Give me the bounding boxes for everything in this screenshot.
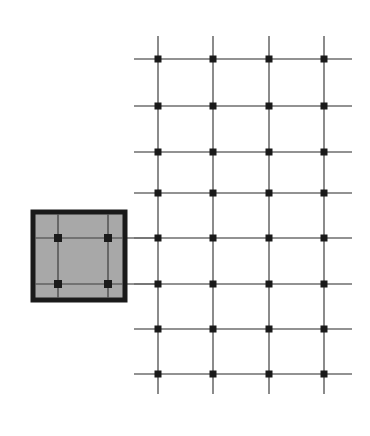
lattice-node-r6-c2 — [266, 326, 273, 333]
lattice-node-r3-c1 — [210, 190, 217, 197]
lattice-node-r2-c0 — [155, 149, 162, 156]
lattice-diagram — [0, 0, 370, 436]
lattice-node-r2-c1 — [210, 149, 217, 156]
lattice-node-r5-c2 — [266, 281, 273, 288]
inset-node-r0-c1 — [104, 234, 112, 242]
lattice-node-r5-c3 — [321, 281, 328, 288]
lattice-node-r0-c2 — [266, 56, 273, 63]
lattice-node-r7-c0 — [155, 371, 162, 378]
lattice-node-r4-c2 — [266, 235, 273, 242]
inset-node-r1-c1 — [104, 280, 112, 288]
lattice-node-r6-c1 — [210, 326, 217, 333]
lattice-node-r0-c3 — [321, 56, 328, 63]
lattice-node-r5-c1 — [210, 281, 217, 288]
lattice-node-r0-c0 — [155, 56, 162, 63]
lattice-node-r3-c2 — [266, 190, 273, 197]
inset-node-r1-c0 — [54, 280, 62, 288]
lattice-node-r0-c1 — [210, 56, 217, 63]
lattice-node-r1-c3 — [321, 103, 328, 110]
lattice-node-r1-c1 — [210, 103, 217, 110]
lattice-node-r7-c3 — [321, 371, 328, 378]
figure-canvas — [0, 0, 370, 436]
lattice-node-r2-c3 — [321, 149, 328, 156]
lattice-node-r4-c3 — [321, 235, 328, 242]
lattice-node-r1-c2 — [266, 103, 273, 110]
lattice-node-r5-c0 — [155, 281, 162, 288]
lattice-node-r4-c1 — [210, 235, 217, 242]
lattice-node-r3-c3 — [321, 190, 328, 197]
inset-node-r0-c0 — [54, 234, 62, 242]
lattice-node-r6-c0 — [155, 326, 162, 333]
lattice-node-r7-c1 — [210, 371, 217, 378]
lattice-node-r7-c2 — [266, 371, 273, 378]
lattice-node-r1-c0 — [155, 103, 162, 110]
lattice-node-r6-c3 — [321, 326, 328, 333]
lattice-node-r3-c0 — [155, 190, 162, 197]
inset-group — [33, 212, 125, 300]
lattice-node-r2-c2 — [266, 149, 273, 156]
lattice-node-r4-c0 — [155, 235, 162, 242]
